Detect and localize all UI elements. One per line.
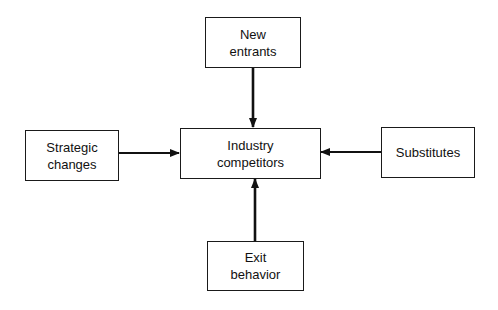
node-strategic-changes: Strategicchanges xyxy=(25,130,119,181)
node-label: New xyxy=(240,27,266,42)
node-label: changes xyxy=(47,157,96,172)
diagram-canvas: Newentrants Industrycompetitors Strategi… xyxy=(0,0,498,310)
node-label: entrants xyxy=(230,44,277,59)
node-label: Strategic xyxy=(46,140,97,155)
node-substitutes: Substitutes xyxy=(381,127,475,178)
node-exit-behavior: Exitbehavior xyxy=(207,241,304,291)
node-label: Exit xyxy=(245,250,267,265)
node-label: behavior xyxy=(231,267,281,282)
node-industry-competitors: Industrycompetitors xyxy=(180,128,321,179)
node-new-entrants: Newentrants xyxy=(205,17,301,68)
node-label: Substitutes xyxy=(396,145,460,160)
node-label: competitors xyxy=(217,155,284,170)
node-label: Industry xyxy=(227,138,273,153)
